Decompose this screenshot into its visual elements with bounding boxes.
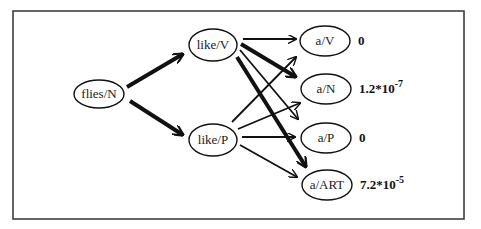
node-like-p: like/P — [189, 124, 237, 156]
viterbi-lattice-diagram: flies/Nlike/Vlike/Pa/V0a/N1.2*10-7a/P0a/… — [0, 0, 481, 229]
node-flies-n: flies/N — [74, 80, 124, 108]
node-label: a/N — [317, 81, 336, 96]
node-label: a/V — [316, 33, 335, 48]
edge-flies-n-to-like-v — [127, 54, 183, 87]
node-label: flies/N — [81, 86, 117, 101]
edge-like-p-to-a-art — [240, 145, 297, 177]
node-label: like/V — [197, 37, 230, 52]
edge-like-v-to-a-art — [237, 57, 306, 167]
node-label: a/P — [318, 130, 335, 145]
probability-label: 0 — [358, 33, 365, 48]
probability-label: 0 — [359, 130, 366, 145]
node-a-n: a/N1.2*10-7 — [301, 74, 403, 104]
probability-label: 7.2*10-5 — [360, 174, 404, 192]
node-a-art: a/ART7.2*10-5 — [302, 170, 404, 200]
probability-label: 1.2*10-7 — [359, 78, 403, 96]
node-a-v: a/V0 — [300, 26, 365, 56]
node-a-p: a/P0 — [301, 123, 366, 153]
node-label: like/P — [198, 132, 228, 147]
node-label: a/ART — [310, 177, 345, 192]
edge-flies-n-to-like-p — [130, 101, 183, 135]
node-like-v: like/V — [189, 29, 237, 61]
nodes: flies/Nlike/Vlike/Pa/V0a/N1.2*10-7a/P0a/… — [74, 26, 404, 200]
